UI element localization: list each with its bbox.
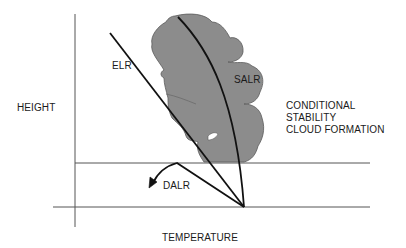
y-axis-label: HEIGHT bbox=[17, 102, 55, 114]
x-axis-label: TEMPERATURE bbox=[162, 232, 238, 244]
stability-annotation: CONDITIONAL STABILITY CLOUD FORMATION bbox=[286, 100, 385, 136]
lapse-rate-diagram: HEIGHT TEMPERATURE ELR SALR DALR CONDITI… bbox=[0, 0, 406, 248]
annotation-line-2: STABILITY bbox=[286, 112, 385, 124]
salr-label: SALR bbox=[234, 74, 261, 86]
dalr-label: DALR bbox=[163, 180, 190, 192]
cloud-shape bbox=[152, 14, 264, 162]
elr-label: ELR bbox=[112, 60, 132, 72]
annotation-line-3: CLOUD FORMATION bbox=[286, 124, 385, 136]
annotation-line-1: CONDITIONAL bbox=[286, 100, 385, 112]
